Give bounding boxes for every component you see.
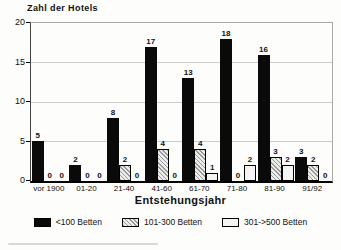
y-tick-mark <box>26 101 30 102</box>
legend-label: 101-300 Betten <box>144 217 202 227</box>
bar-value-label: 1 <box>203 163 221 172</box>
bar-value-label: 0 <box>166 171 184 180</box>
y-tick-label: 10 <box>3 96 25 106</box>
x-category-label: 41-60 <box>143 184 181 194</box>
x-category-label: 21-40 <box>105 184 143 194</box>
x-axis-title: Entstehungsjahr <box>30 194 331 206</box>
y-tick-mark <box>26 22 30 23</box>
bar-value-label: 0 <box>128 171 146 180</box>
bar-value-label: 8 <box>104 108 122 117</box>
hotel-bar-chart-figure: Zahl der Hotels 500200820174013411802163… <box>0 0 341 250</box>
bar-light-gray <box>244 165 256 181</box>
bar-solid-black <box>220 39 232 181</box>
legend-swatch-light-gray <box>222 218 239 227</box>
bar-value-label: 16 <box>255 45 273 54</box>
bar-value-label: 2 <box>116 155 134 164</box>
bar-value-label: 13 <box>179 68 197 77</box>
bar-value-label: 17 <box>142 37 160 46</box>
bar-solid-black <box>145 47 157 181</box>
y-tick-label: 0 <box>3 175 25 185</box>
x-category-label: 81-90 <box>256 184 294 194</box>
x-category-label: 71-80 <box>218 184 256 194</box>
legend-item: 301->500 Betten <box>222 217 307 227</box>
bar-light-gray <box>206 173 218 181</box>
bar-value-label: 5 <box>29 131 47 140</box>
y-tick-label: 15 <box>3 57 25 67</box>
scan-artifact <box>8 243 158 245</box>
legend-item: <100 Betten <box>34 217 102 227</box>
bar-solid-black <box>182 78 194 181</box>
legend-swatch-hatched-gray <box>122 218 139 227</box>
bar-value-label: 4 <box>191 139 209 148</box>
plot-area: 5002008201740134118021632320 <box>30 22 333 183</box>
bar-value-label: 2 <box>66 155 84 164</box>
y-tick-mark <box>26 141 30 142</box>
bar-value-label: 0 <box>316 171 334 180</box>
bar-solid-black <box>107 118 119 181</box>
x-category-label: 01-20 <box>68 184 106 194</box>
x-category-label: 91/92 <box>293 184 331 194</box>
y-tick-label: 20 <box>3 17 25 27</box>
y-tick-label: 5 <box>3 136 25 146</box>
legend-swatch-solid-black <box>34 218 51 227</box>
legend-item: 101-300 Betten <box>122 217 202 227</box>
gridline <box>31 62 332 63</box>
bar-value-label: 2 <box>304 155 322 164</box>
x-category-label: vor 1900 <box>30 184 68 194</box>
legend-label: <100 Betten <box>56 217 102 227</box>
legend: <100 Betten101-300 Betten301->500 Betten <box>0 217 341 227</box>
bar-value-label: 4 <box>154 139 172 148</box>
bar-solid-black <box>258 55 270 181</box>
bar-value-label: 18 <box>217 29 235 38</box>
bar-value-label: 2 <box>279 155 297 164</box>
bar-light-gray <box>282 165 294 181</box>
x-category-label: 61-70 <box>181 184 219 194</box>
bar-value-label: 2 <box>241 155 259 164</box>
bar-value-label: 0 <box>90 171 108 180</box>
y-tick-mark <box>26 180 30 181</box>
y-tick-mark <box>26 62 30 63</box>
y-axis-title: Zahl der Hotels <box>27 3 98 13</box>
bar-value-label: 0 <box>53 171 71 180</box>
legend-label: 301->500 Betten <box>244 217 307 227</box>
